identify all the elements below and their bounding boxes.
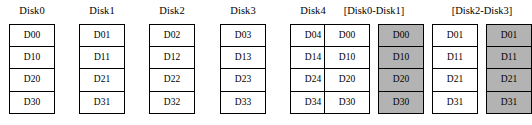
disk-stack-disk3: Disk3D03D13D23D33 bbox=[220, 0, 266, 22]
disk-stack-label-disk2: Disk2 bbox=[149, 0, 195, 22]
disk-cell: D10 bbox=[10, 47, 54, 69]
disk-cell: D00 bbox=[325, 25, 369, 47]
disk-cell: D21 bbox=[80, 69, 124, 91]
disk-group-label-group-disk0-disk1: [Disk0-Disk1] bbox=[324, 0, 424, 22]
disk-cell: D20 bbox=[379, 69, 423, 91]
disk-cell: D12 bbox=[150, 47, 194, 69]
disk-cell: D13 bbox=[221, 47, 265, 69]
disk-cell: D00 bbox=[10, 25, 54, 47]
disk-cell: D11 bbox=[433, 47, 477, 69]
disk-stack-body-mirror-b-copy: D01D11D21D31 bbox=[486, 24, 532, 114]
disk-cell: D01 bbox=[80, 25, 124, 47]
disk-stack-disk0: Disk0D00D10D20D30 bbox=[9, 0, 55, 22]
disk-cell: D21 bbox=[487, 69, 531, 91]
disk-stack-body-disk2: D02D12D22D32 bbox=[149, 24, 195, 114]
disk-stack-body-disk3: D03D13D23D33 bbox=[220, 24, 266, 114]
disk-cell: D11 bbox=[80, 47, 124, 69]
disk-stack-body-mirror-b-primary: D01D11D21D31 bbox=[432, 24, 478, 114]
disk-cell: D10 bbox=[325, 47, 369, 69]
disk-cell: D32 bbox=[150, 92, 194, 114]
disk-cell: D31 bbox=[80, 92, 124, 114]
disk-stack-body-mirror-a-primary: D00D10D20D30 bbox=[324, 24, 370, 114]
disk-stack-label-disk0: Disk0 bbox=[9, 0, 55, 22]
disk-cell: D22 bbox=[150, 69, 194, 91]
disk-cell: D20 bbox=[325, 69, 369, 91]
disk-cell: D01 bbox=[487, 25, 531, 47]
disk-stack-disk2: Disk2D02D12D22D32 bbox=[149, 0, 195, 22]
disk-stack-body-mirror-a-copy: D00D10D20D30 bbox=[378, 24, 424, 114]
disk-cell: D33 bbox=[221, 92, 265, 114]
disk-cell: D01 bbox=[433, 25, 477, 47]
disk-cell: D02 bbox=[150, 25, 194, 47]
disk-cell: D10 bbox=[379, 47, 423, 69]
disk-cell: D20 bbox=[10, 69, 54, 91]
disk-cell: D11 bbox=[487, 47, 531, 69]
disk-cell: D30 bbox=[10, 92, 54, 114]
disk-cell: D30 bbox=[325, 92, 369, 114]
disk-cell: D30 bbox=[379, 92, 423, 114]
disk-stack-label-disk3: Disk3 bbox=[220, 0, 266, 22]
disk-cell: D31 bbox=[487, 92, 531, 114]
disk-stack-body-disk1: D01D11D21D31 bbox=[79, 24, 125, 114]
disk-cell: D31 bbox=[433, 92, 477, 114]
disk-stack-body-disk0: D00D10D20D30 bbox=[9, 24, 55, 114]
disk-cell: D23 bbox=[221, 69, 265, 91]
disk-cell: D21 bbox=[433, 69, 477, 91]
disk-group-label-group-disk2-disk3: [Disk2-Disk3] bbox=[432, 0, 532, 22]
disk-cell: D03 bbox=[221, 25, 265, 47]
disk-cell: D00 bbox=[379, 25, 423, 47]
disk-stack-label-disk1: Disk1 bbox=[79, 0, 125, 22]
disk-stack-disk1: Disk1D01D11D21D31 bbox=[79, 0, 125, 22]
